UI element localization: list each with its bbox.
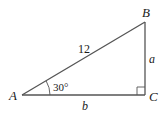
- vertex-label-b: B: [142, 5, 150, 20]
- side-b-label: b: [82, 99, 88, 113]
- angle-arc-a: [46, 81, 50, 95]
- vertex-label-a: A: [8, 88, 17, 103]
- triangle-diagram: A B C 12 a b 30°: [0, 0, 165, 119]
- angle-a-label: 30°: [53, 81, 68, 93]
- hypotenuse: [22, 22, 145, 95]
- right-angle-marker: [137, 87, 145, 95]
- side-a-label: a: [149, 52, 155, 66]
- hypotenuse-label: 12: [78, 42, 90, 56]
- vertex-label-c: C: [149, 89, 158, 104]
